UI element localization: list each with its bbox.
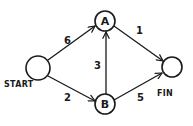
weight-start-b: 2 <box>64 92 71 103</box>
weight-start-a: 6 <box>64 35 71 46</box>
weight-b-fin: 5 <box>137 92 144 103</box>
edge-start-to-a <box>48 26 95 60</box>
node-b: B <box>95 94 115 114</box>
node-a-label: A <box>101 15 110 28</box>
node-b-label: B <box>101 98 109 111</box>
fin-caption: FIN <box>157 89 173 98</box>
weight-b-a: 3 <box>94 60 101 71</box>
node-start <box>26 56 50 80</box>
node-a: A <box>95 11 115 31</box>
graph-diagram: 6 2 3 1 5 A B START FIN <box>0 0 193 126</box>
start-caption: START <box>4 80 34 89</box>
weight-a-fin: 1 <box>136 25 143 36</box>
node-fin <box>162 57 182 77</box>
edge-start-to-b <box>48 76 95 101</box>
